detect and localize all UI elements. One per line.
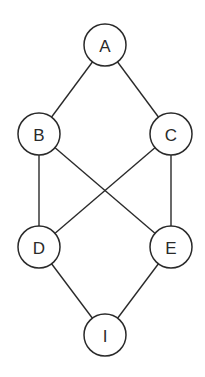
edges-group — [39, 45, 171, 335]
node-label: I — [103, 327, 108, 346]
node-d: D — [18, 226, 60, 268]
node-i: I — [84, 314, 126, 356]
node-label: B — [33, 126, 44, 145]
node-label: D — [33, 239, 45, 258]
node-e: E — [150, 226, 192, 268]
node-b: B — [18, 113, 60, 155]
node-label: C — [165, 126, 177, 145]
node-a: A — [84, 24, 126, 66]
node-label: E — [165, 239, 176, 258]
lattice-diagram: ABCDEI — [0, 0, 205, 377]
node-label: A — [99, 37, 111, 56]
node-c: C — [150, 113, 192, 155]
